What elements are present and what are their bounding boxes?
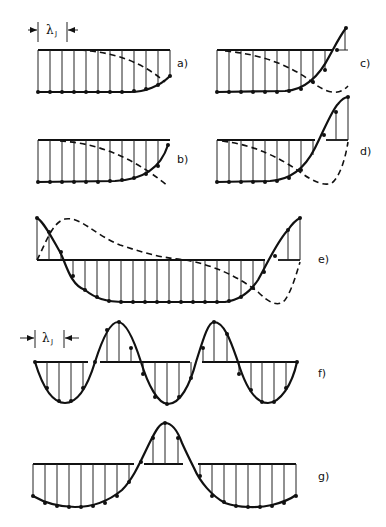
panel-label-f: f)	[318, 367, 326, 380]
panel-a: λ J a)	[28, 22, 188, 94]
panel-label-g: g)	[318, 470, 329, 483]
panel-e: e)	[35, 216, 329, 304]
lambda-dimension-a: λ J	[28, 22, 78, 42]
panel-label-e: e)	[318, 253, 329, 266]
lambda-symbol: λ	[46, 23, 54, 37]
panel-g: g)	[31, 421, 329, 509]
panel-b: b)	[36, 140, 188, 186]
lambda-dimension-f: λ J	[20, 330, 79, 348]
panel-label-d: d)	[360, 145, 371, 158]
mode-profile-diagram: λ J a)	[0, 0, 386, 527]
panel-d: d)	[215, 95, 371, 184]
panel-label-b: b)	[177, 153, 188, 166]
lambda-symbol: λ	[42, 331, 50, 345]
svg-text:J: J	[54, 30, 57, 38]
panel-f: λ J f	[20, 320, 326, 406]
panel-label-c: c)	[360, 57, 370, 70]
panel-label-a: a)	[177, 57, 188, 70]
svg-text:J: J	[50, 338, 53, 346]
panel-c: c)	[215, 26, 370, 94]
